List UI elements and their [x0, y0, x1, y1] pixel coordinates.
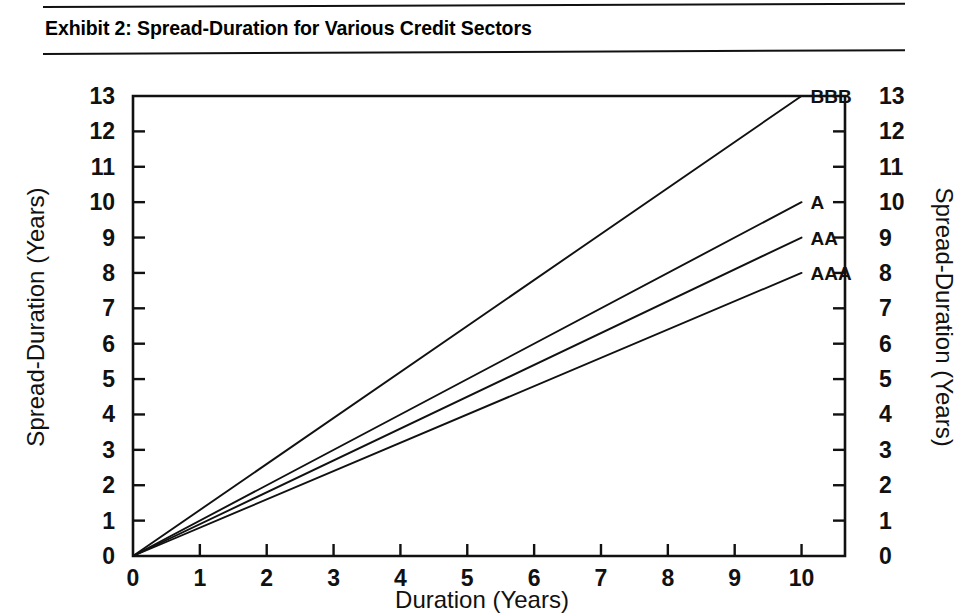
y-tick-label-left: 10	[89, 189, 115, 215]
y-tick-label-right: 1	[879, 508, 892, 534]
series-line-a	[133, 202, 802, 556]
y-axis-left-tick-labels: 012345678910111213	[89, 83, 115, 569]
y-tick-label-left: 7	[102, 295, 115, 321]
page-title: Exhibit 2: Spread-Duration for Various C…	[45, 17, 532, 40]
series-line-aaa	[133, 273, 802, 556]
series-label-bbb: BBB	[811, 86, 852, 107]
y-axis-title-right: Spread-Duration (Years)	[931, 187, 958, 446]
y-tick-label-left: 1	[102, 508, 115, 534]
y-tick-label-left: 9	[102, 225, 115, 251]
y-tick-label-right: 11	[879, 154, 904, 180]
y-tick-label-right: 6	[879, 331, 892, 357]
y-tick-label-right: 8	[879, 260, 892, 286]
series-label-aaa: AAA	[811, 263, 852, 284]
y-tick-label-right: 4	[879, 401, 892, 427]
x-tick-label: 10	[789, 565, 815, 591]
y-axis-right-ticks	[833, 131, 845, 520]
x-axis-title: Duration (Years)	[395, 586, 569, 613]
x-tick-label: 3	[327, 565, 340, 591]
y-tick-label-right: 9	[879, 225, 892, 251]
y-tick-label-left: 3	[102, 437, 115, 463]
y-tick-label-right: 12	[879, 118, 905, 144]
x-tick-label: 2	[260, 565, 273, 591]
series-line-bbb	[133, 96, 802, 556]
header-rule-bottom	[43, 49, 905, 55]
y-tick-label-left: 8	[102, 260, 115, 286]
x-tick-label: 7	[595, 565, 608, 591]
x-tick-label: 0	[127, 565, 140, 591]
series-lines-group	[133, 96, 802, 556]
y-tick-label-right: 0	[879, 543, 892, 569]
y-tick-label-right: 3	[879, 437, 892, 463]
header-rule-top	[43, 3, 905, 8]
x-tick-label: 8	[661, 565, 674, 591]
y-tick-label-right: 5	[879, 366, 892, 392]
x-tick-label: 1	[193, 565, 206, 591]
series-label-a: A	[811, 192, 825, 213]
x-tick-label: 9	[728, 565, 741, 591]
y-tick-label-left: 2	[102, 472, 115, 498]
y-tick-label-left: 13	[89, 83, 115, 109]
exhibit-header: Exhibit 2: Spread-Duration for Various C…	[43, 0, 905, 60]
y-tick-label-right: 2	[879, 472, 892, 498]
chart-canvas: 012345678910111213 012345678910111213 01…	[0, 60, 964, 613]
y-tick-label-right: 10	[879, 189, 905, 215]
y-tick-label-left: 6	[102, 331, 115, 357]
plot-axes-frame	[133, 96, 845, 556]
y-tick-label-left: 0	[102, 543, 115, 569]
chart-figure: 012345678910111213 012345678910111213 01…	[0, 60, 964, 613]
y-axis-left-ticks	[133, 131, 145, 520]
y-tick-label-left: 4	[102, 401, 115, 427]
series-line-aa	[133, 238, 802, 556]
y-tick-label-left: 5	[102, 366, 115, 392]
y-axis-right-tick-labels: 012345678910111213	[879, 83, 905, 569]
x-axis-ticks	[200, 544, 802, 556]
y-tick-label-left: 11	[91, 154, 116, 180]
y-tick-label-left: 12	[89, 118, 115, 144]
y-tick-label-right: 13	[879, 83, 905, 109]
series-label-aa: AA	[811, 228, 839, 249]
y-axis-title-left: Spread-Duration (Years)	[22, 187, 49, 446]
y-tick-label-right: 7	[879, 295, 892, 321]
